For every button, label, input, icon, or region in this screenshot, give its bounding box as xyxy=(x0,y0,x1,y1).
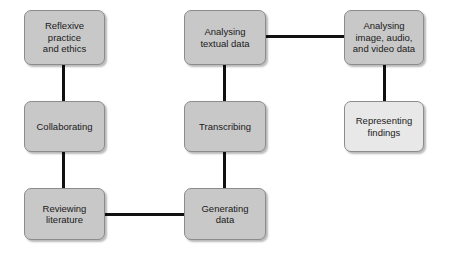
node-transcribing[interactable]: Transcribing xyxy=(184,101,266,152)
node-label-analysing-image-audio-and-video-data: Analysing image, audio, and video data xyxy=(350,20,418,55)
node-representing-findings[interactable]: Representing findings xyxy=(344,101,424,152)
node-reviewing-literature[interactable]: Reviewing literature xyxy=(24,188,105,240)
node-analysing-textual-data[interactable]: Analysing textual data xyxy=(184,10,266,65)
node-label-collaborating: Collaborating xyxy=(34,121,96,133)
node-label-transcribing: Transcribing xyxy=(196,121,254,133)
connector-transcribing-to-generating-data xyxy=(223,151,226,189)
node-reflexive-practice-and-ethics[interactable]: Reflexive practice and ethics xyxy=(24,10,105,65)
process-flow-diagram: Reflexive practice and ethics Analysing … xyxy=(0,0,454,254)
node-label-analysing-textual-data: Analysing textual data xyxy=(197,26,252,49)
node-label-reflexive-practice-and-ethics: Reflexive practice and ethics xyxy=(40,20,89,55)
node-generating-data[interactable]: Generating data xyxy=(184,188,266,240)
connector-analysing-textual-to-transcribing xyxy=(223,64,226,102)
connector-analysing-textual-to-analysing-image xyxy=(265,35,345,38)
connector-collaborating-to-reviewing-literature xyxy=(62,151,65,189)
node-label-generating-data: Generating data xyxy=(198,203,251,226)
node-analysing-image-audio-and-video-data[interactable]: Analysing image, audio, and video data xyxy=(344,10,424,65)
connector-reflexive-to-collaborating xyxy=(62,64,65,102)
node-label-representing-findings: Representing findings xyxy=(353,115,416,138)
node-label-reviewing-literature: Reviewing literature xyxy=(40,203,90,226)
node-collaborating[interactable]: Collaborating xyxy=(24,101,105,152)
connector-analysing-image-to-representing-findings xyxy=(383,64,386,102)
connector-reviewing-literature-to-generating-data xyxy=(104,213,185,216)
